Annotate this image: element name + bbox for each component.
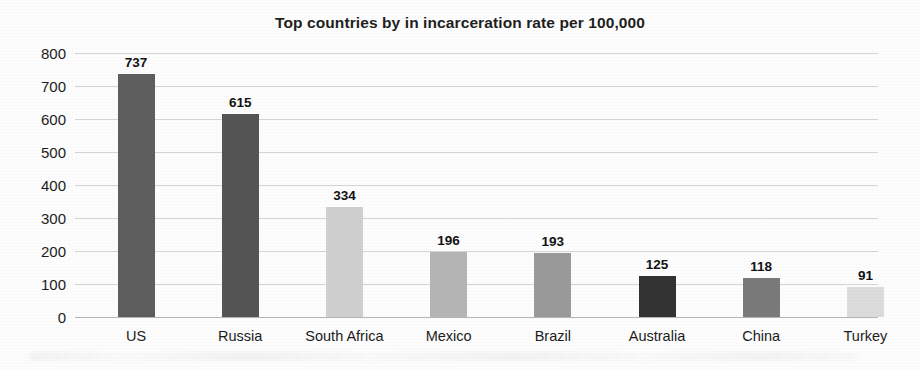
x-axis-category-label: Mexico [389, 328, 509, 344]
x-axis-line [75, 317, 878, 318]
x-axis-category-label: US [76, 328, 196, 344]
bar-value-label: 615 [200, 95, 280, 110]
gridline [75, 185, 878, 186]
x-axis-category-label: South Africa [284, 328, 404, 344]
y-axis-tick-label: 800 [8, 45, 66, 62]
gridline [75, 251, 878, 252]
bar[interactable] [847, 287, 884, 317]
y-axis-tick-label: 100 [8, 276, 66, 293]
gridline [75, 218, 878, 219]
x-axis-category-label: Brazil [493, 328, 613, 344]
gridline [75, 53, 878, 54]
bar[interactable] [326, 207, 363, 317]
bar-value-label: 193 [513, 234, 593, 249]
x-axis-category-label: China [701, 328, 821, 344]
bar-value-label: 118 [721, 259, 801, 274]
x-axis-category-label: Australia [597, 328, 717, 344]
bar[interactable] [118, 74, 155, 317]
bar-value-label: 334 [304, 188, 384, 203]
gridline [75, 119, 878, 120]
x-axis-category-label: Turkey [805, 328, 920, 344]
bar-value-label: 196 [409, 233, 489, 248]
plot-area: 73761533419619312511891 [75, 53, 878, 317]
bar[interactable] [222, 114, 259, 317]
bar[interactable] [743, 278, 780, 317]
y-axis-tick-label: 400 [8, 177, 66, 194]
chart-title: Top countries by in incarceration rate p… [0, 14, 920, 32]
bar[interactable] [534, 253, 571, 317]
bar[interactable] [430, 252, 467, 317]
x-axis-category-label: Russia [180, 328, 300, 344]
y-axis-tick-label: 200 [8, 243, 66, 260]
y-axis-tick-label: 500 [8, 144, 66, 161]
y-axis-tick-label: 600 [8, 111, 66, 128]
bar-chart: Top countries by in incarceration rate p… [0, 0, 920, 370]
y-axis-tick-label: 300 [8, 210, 66, 227]
gridline [75, 86, 878, 87]
bar-value-label: 125 [617, 257, 697, 272]
scan-artifact [30, 352, 860, 361]
bar-value-label: 91 [825, 268, 905, 283]
bar-value-label: 737 [96, 55, 176, 70]
gridline [75, 152, 878, 153]
y-axis-tick-label: 700 [8, 78, 66, 95]
bar[interactable] [639, 276, 676, 317]
y-axis-tick-label: 0 [8, 309, 66, 326]
